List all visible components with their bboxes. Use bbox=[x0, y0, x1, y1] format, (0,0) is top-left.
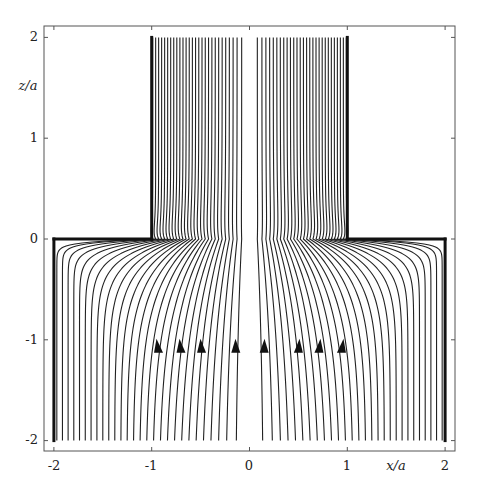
flow-arrow-up bbox=[177, 339, 186, 353]
ytick-label: 1 bbox=[30, 130, 38, 145]
xtick-label: 2 bbox=[441, 458, 449, 473]
walls bbox=[54, 37, 445, 440]
flow-arrow-up bbox=[154, 339, 163, 353]
streamline bbox=[189, 37, 219, 440]
x-axis-label: x/a bbox=[386, 458, 405, 473]
flow-arrow-up bbox=[294, 339, 303, 353]
streamline bbox=[280, 37, 310, 440]
flow-arrow-up bbox=[314, 339, 323, 353]
xtick-label: -2 bbox=[48, 458, 61, 473]
ytick-label: -1 bbox=[25, 332, 38, 347]
ytick-label: 2 bbox=[30, 29, 38, 44]
flow-arrow-up bbox=[197, 339, 206, 353]
ytick-label: 0 bbox=[30, 231, 38, 246]
ytick-label: -2 bbox=[25, 432, 38, 447]
streamline bbox=[270, 37, 288, 440]
flow-arrow-up bbox=[231, 339, 240, 353]
xtick-label: -1 bbox=[145, 458, 158, 473]
xtick-label: 1 bbox=[343, 458, 351, 473]
xtick-label: 0 bbox=[245, 458, 253, 473]
streamline bbox=[262, 37, 272, 440]
streamline bbox=[227, 37, 237, 440]
y-axis-label: z/a bbox=[18, 78, 38, 93]
streamline bbox=[211, 37, 229, 440]
streamline-figure: -2 -1 0 1 2 -2 -1 0 1 2 x/a z/a bbox=[0, 0, 481, 490]
